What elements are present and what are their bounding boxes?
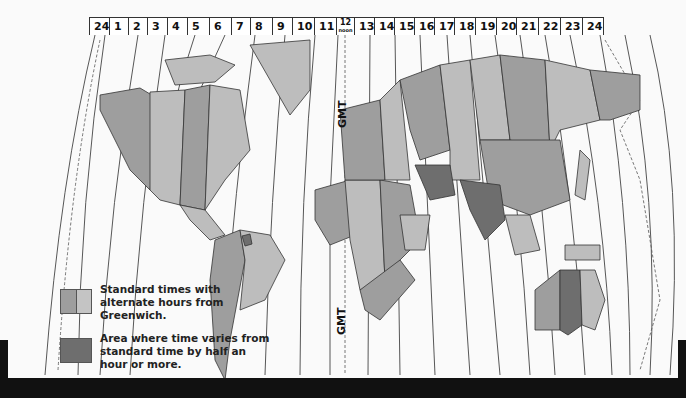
hour-label: 3 <box>147 17 167 35</box>
legend-swatch-standard <box>60 289 92 314</box>
north-america <box>100 40 310 240</box>
legend-swatch-half-hour <box>60 338 92 363</box>
hour-label: 9 <box>272 17 292 35</box>
hour-label: 17 <box>434 17 454 35</box>
hour-label: 1 <box>109 17 128 35</box>
swatch-light <box>77 290 92 313</box>
asia <box>400 55 640 255</box>
legend-item-half-hour: Area where time varies from standard tim… <box>60 332 270 371</box>
bottom-border <box>0 378 686 398</box>
hour-label: 18 <box>454 17 475 35</box>
hour-label-noon: 12 noon <box>336 17 354 35</box>
hour-label: 10 <box>292 17 314 35</box>
legend-label: Standard times with alternate hours from… <box>100 283 270 322</box>
hour-label: 20 <box>496 17 516 35</box>
hour-label: 14 <box>374 17 394 35</box>
hour-label: 5 <box>187 17 209 35</box>
hour-label: 24 <box>582 17 604 35</box>
legend-item-standard: Standard times with alternate hours from… <box>60 283 270 322</box>
hour-label: 15 <box>394 17 414 35</box>
legend: Standard times with alternate hours from… <box>60 283 270 381</box>
hour-label: 16 <box>414 17 434 35</box>
hour-label: 23 <box>560 17 582 35</box>
hour-label: 12 <box>337 18 354 27</box>
hour-label: 24 <box>89 17 109 35</box>
australia <box>535 245 605 335</box>
hour-labels: 24 1 2 3 4 5 6 7 8 9 10 11 12 noon 13 14… <box>89 17 604 35</box>
swatch-mid <box>61 290 77 313</box>
hour-label: 19 <box>475 17 496 35</box>
left-border <box>0 340 8 380</box>
hour-label: 11 <box>314 17 336 35</box>
hour-label: 8 <box>250 17 272 35</box>
right-border <box>678 340 686 380</box>
hour-label: 13 <box>354 17 374 35</box>
gmt-label-north: GMT <box>336 101 349 128</box>
hour-label: 2 <box>128 17 147 35</box>
hour-label: 22 <box>538 17 560 35</box>
hour-label: 4 <box>167 17 187 35</box>
hour-label: 7 <box>231 17 250 35</box>
hour-label: 6 <box>209 17 231 35</box>
gmt-label-south: GMT <box>335 308 348 335</box>
legend-label: Area where time varies from standard tim… <box>100 332 270 371</box>
noon-label: noon <box>337 27 354 33</box>
hour-label: 21 <box>516 17 538 35</box>
